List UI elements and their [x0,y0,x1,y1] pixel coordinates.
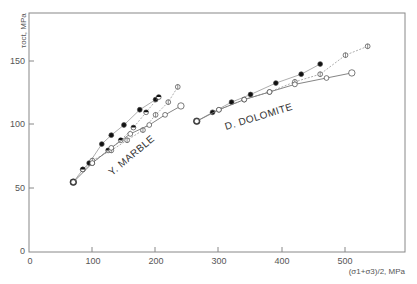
y-tick-0: 0 [20,246,25,256]
marble-label: Y. MARBLE [106,133,156,178]
x-tick-300: 300 [211,256,226,266]
y-tick-150: 150 [10,56,25,66]
data-point [292,82,297,87]
plot-frame [29,13,405,252]
x-axis [92,247,345,252]
data-point [147,123,152,128]
y-tick-50: 50 [15,183,25,193]
dolomite-label: D. DOLOMITE [223,101,294,132]
series-3 [71,103,184,185]
x-tick-100: 100 [85,256,100,266]
data-point [318,62,323,67]
data-point [90,161,95,166]
x-tick-500: 500 [337,256,352,266]
data-point [194,119,199,124]
data-point [248,92,253,97]
data-point [273,81,278,86]
x-axis-label: (σ1+σ3)/2, MPa [349,267,406,276]
data-point [109,133,114,138]
data-point [267,90,272,95]
y-axis-label: τoct, MPa [19,13,28,48]
data-point [217,107,222,112]
data-point [163,112,168,117]
data-point [109,145,114,150]
data-point [242,97,247,102]
data-point [324,76,329,81]
data-point [71,180,76,185]
y-axis [29,61,34,188]
data-point [349,70,355,76]
data-point [99,142,104,147]
data-point [137,107,142,112]
data-point [128,131,133,136]
x-tick-200: 200 [148,256,163,266]
x-tick-0: 0 [27,256,32,266]
chart: 150 100 50 0 0 100 200 300 400 500 τoct,… [0,0,417,284]
data-point [299,72,304,77]
x-tick-400: 400 [274,256,289,266]
data-point [178,103,184,109]
data-point [122,123,127,128]
y-tick-100: 100 [10,119,25,129]
